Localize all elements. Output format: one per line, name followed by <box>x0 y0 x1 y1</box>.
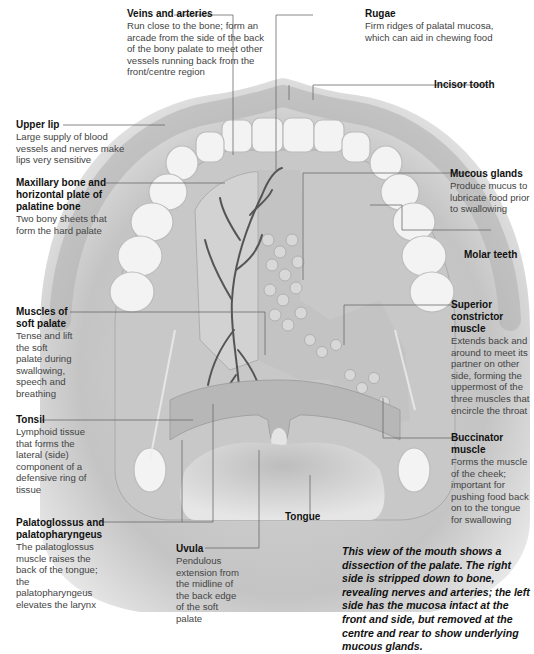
label-palatoglossus: Palatoglossus and palatopharyngeus The p… <box>16 517 108 611</box>
label-upper-lip: Upper lip Large supply of blood vessels … <box>16 119 136 166</box>
label-title: Palatoglossus and palatopharyngeus <box>16 517 108 541</box>
label-title: Incisor tooth <box>434 79 534 91</box>
label-buccinator: Buccinator muscle Forms the muscle of th… <box>451 432 534 526</box>
label-title: Mucous glands <box>450 168 534 180</box>
figure-caption: This view of the mouth shows a dissectio… <box>342 545 532 654</box>
label-mucous-glands: Mucous glands Produce mucus to lubricate… <box>450 168 534 215</box>
label-rugae: Rugae Firm ridges of palatal mucosa, whi… <box>365 8 505 43</box>
label-desc: Lymphoid tissue that forms the lateral (… <box>16 426 88 496</box>
label-tongue: Tongue <box>285 511 345 523</box>
label-superior-constrictor: Superior constrictor muscle Extends back… <box>451 299 534 416</box>
label-desc: Forms the muscle of the cheek; important… <box>451 456 534 526</box>
label-desc: Pendulous extension from the midline of … <box>176 555 246 625</box>
label-title: Maxillary bone and horizontal plate of p… <box>16 177 108 213</box>
label-desc: Tense and lift the soft palate during sw… <box>16 330 76 400</box>
label-desc: Firm ridges of palatal mucosa, which can… <box>365 20 505 43</box>
label-incisor-tooth: Incisor tooth <box>434 79 534 91</box>
label-desc: Extends back and around to meet its part… <box>451 335 534 416</box>
label-muscles-soft-palate: Muscles of soft palate Tense and lift th… <box>16 306 76 400</box>
label-title: Tongue <box>285 511 345 523</box>
label-title: Molar teeth <box>464 249 534 261</box>
label-tonsil: Tonsil Lymphoid tissue that forms the la… <box>16 414 88 496</box>
label-maxillary-bone: Maxillary bone and horizontal plate of p… <box>16 177 108 236</box>
label-molar-teeth: Molar teeth <box>464 249 534 261</box>
label-title: Muscles of soft palate <box>16 306 76 330</box>
label-uvula: Uvula Pendulous extension from the midli… <box>176 543 246 625</box>
label-veins-arteries: Veins and arteries Run close to the bone… <box>127 8 272 78</box>
label-desc: Two bony sheets that form the hard palat… <box>16 213 108 236</box>
label-title: Rugae <box>365 8 505 20</box>
label-desc: Run close to the bone; form an arcade fr… <box>127 20 272 78</box>
label-title: Tonsil <box>16 414 88 426</box>
label-desc: Produce mucus to lubricate food prior to… <box>450 180 534 215</box>
label-title: Veins and arteries <box>127 8 272 20</box>
label-title: Superior constrictor muscle <box>451 299 534 335</box>
label-title: Buccinator muscle <box>451 432 534 456</box>
label-title: Upper lip <box>16 119 136 131</box>
label-desc: Large supply of blood vessels and nerves… <box>16 131 136 166</box>
label-title: Uvula <box>176 543 246 555</box>
label-desc: The palatoglossus muscle raises the back… <box>16 541 108 611</box>
